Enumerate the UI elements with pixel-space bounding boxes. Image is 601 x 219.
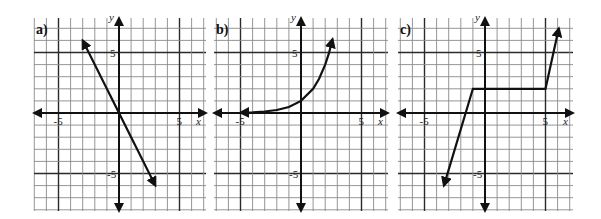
tick-label-y-neg5: -5 — [107, 168, 117, 180]
x-axis-label: x — [377, 115, 383, 127]
tick-label-x-5: 5 — [543, 115, 549, 127]
graph-panel-b: b)-555-5xy — [214, 11, 388, 211]
tick-label-x-neg5: -5 — [54, 115, 64, 127]
tick-label-y-5: 5 — [476, 47, 482, 59]
tick-label-y-neg5: -5 — [473, 168, 483, 180]
graph-panel-a: a)-555-5xy — [34, 11, 206, 211]
tick-label-x-neg5: -5 — [420, 115, 430, 127]
y-axis-label: y — [290, 11, 296, 23]
panel-label: a) — [36, 22, 48, 38]
graphs-figure: a)-555-5xy b)-555-5xy c)-555-5xy — [0, 0, 601, 219]
y-axis-label: y — [474, 11, 480, 23]
y-axis-label: y — [108, 11, 114, 23]
panel-label: c) — [400, 22, 411, 38]
x-axis-label: x — [195, 115, 201, 127]
panel-label: b) — [216, 22, 229, 38]
graph-panel-c: c)-555-5xy — [398, 11, 573, 211]
tick-label-x-5: 5 — [177, 115, 183, 127]
tick-label-x-5: 5 — [359, 115, 365, 127]
tick-label-y-5: 5 — [110, 47, 116, 59]
x-axis-label: x — [562, 115, 568, 127]
graph-curve — [241, 39, 333, 112]
tick-label-x-neg5: -5 — [236, 115, 246, 127]
tick-label-y-neg5: -5 — [289, 168, 299, 180]
tick-label-y-5: 5 — [292, 47, 298, 59]
